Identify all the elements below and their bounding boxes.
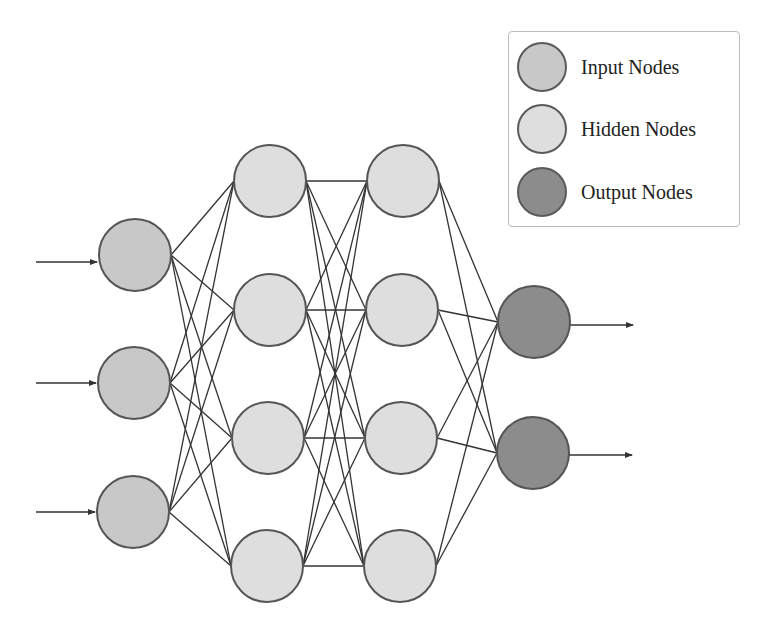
legend-label: Input Nodes bbox=[581, 56, 679, 79]
connection-edge bbox=[169, 181, 234, 512]
input-node-swatch-icon bbox=[517, 42, 567, 92]
input-node bbox=[98, 347, 170, 419]
hidden-node bbox=[234, 274, 306, 346]
output-node bbox=[497, 417, 569, 489]
connection-edge bbox=[436, 453, 497, 566]
output-node-swatch-icon bbox=[517, 167, 567, 217]
hidden-node bbox=[232, 402, 304, 474]
hidden-node bbox=[231, 530, 303, 602]
connection-edge bbox=[169, 438, 232, 512]
hidden-node bbox=[367, 145, 439, 217]
connection-edge bbox=[439, 181, 497, 453]
connection-edge bbox=[437, 322, 498, 438]
connection-edge bbox=[438, 310, 497, 453]
input-node bbox=[99, 219, 171, 291]
connection-edge bbox=[171, 181, 234, 255]
connection-edge bbox=[303, 181, 367, 566]
legend: Input Nodes Hidden Nodes Output Nodes bbox=[508, 31, 740, 227]
hidden-node bbox=[234, 145, 306, 217]
connection-edge bbox=[438, 310, 498, 322]
connection-edge bbox=[436, 322, 498, 566]
connection-edge bbox=[439, 181, 498, 322]
hidden-node-swatch-icon bbox=[517, 104, 567, 154]
nodes bbox=[97, 145, 570, 602]
input-node bbox=[97, 476, 169, 548]
hidden-node bbox=[365, 402, 437, 474]
legend-item-output: Output Nodes bbox=[517, 164, 693, 220]
connections bbox=[169, 181, 498, 566]
hidden-node bbox=[364, 530, 436, 602]
hidden-node bbox=[366, 274, 438, 346]
legend-label: Hidden Nodes bbox=[581, 118, 696, 141]
legend-label: Output Nodes bbox=[581, 181, 693, 204]
legend-item-hidden: Hidden Nodes bbox=[517, 101, 696, 157]
output-node bbox=[498, 286, 570, 358]
legend-item-input: Input Nodes bbox=[517, 39, 679, 95]
